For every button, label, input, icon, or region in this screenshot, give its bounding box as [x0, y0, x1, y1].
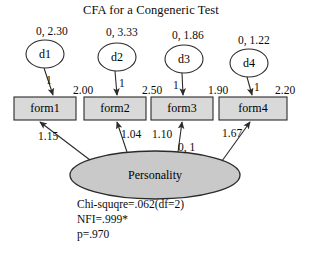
- indicator-label-form3: form3: [151, 102, 213, 114]
- arrow-d3-to-form3: [182, 73, 183, 95]
- loading-form3: 1.10: [152, 129, 172, 141]
- loading-form2: 1.04: [121, 129, 141, 141]
- fixed-loading-d4: 1: [254, 82, 260, 94]
- error-label-d4: d4: [237, 57, 261, 69]
- fit-nfi: NFI=.999*: [77, 213, 128, 227]
- error-label-d3: d3: [172, 53, 196, 65]
- loading-form4: 1.67: [222, 128, 242, 140]
- loading-form1: 1.15: [38, 131, 58, 143]
- error-label-d2: d2: [105, 51, 129, 63]
- error-params-d3: 0, 1.86: [172, 30, 204, 42]
- fixed-loading-d3: 1: [173, 80, 179, 92]
- indicator-label-form2: form2: [84, 102, 146, 114]
- fixed-loading-d2: 1: [119, 78, 125, 90]
- intercept-form3: 1.90: [208, 85, 228, 97]
- error-params-d2: 0, 3.33: [106, 27, 138, 39]
- arrow-d2-to-form2: [115, 71, 117, 95]
- indicator-label-form4: form4: [219, 102, 287, 114]
- indicator-label-form1: form1: [14, 102, 76, 114]
- factor-label-personality: Personality: [110, 169, 200, 181]
- arrow-d4-to-form4: [247, 77, 252, 95]
- fit-p-value: p=.970: [77, 228, 109, 242]
- error-params-d4: 0, 1.22: [238, 35, 270, 47]
- factor-params: 0, 1: [178, 142, 195, 154]
- fit-chi-square: Chi-squqre=.062(df=2): [77, 198, 184, 212]
- intercept-form1: 2.00: [73, 85, 93, 97]
- intercept-form2: 2.50: [142, 85, 162, 97]
- fixed-loading-d1: 1: [46, 75, 52, 87]
- cfa-path-diagram: CFA for a Congeneric Test 0, 2.30: [0, 0, 309, 258]
- error-label-d1: d1: [33, 48, 57, 60]
- error-params-d1: 0, 2.30: [36, 26, 68, 38]
- intercept-form4: 2.20: [275, 85, 295, 97]
